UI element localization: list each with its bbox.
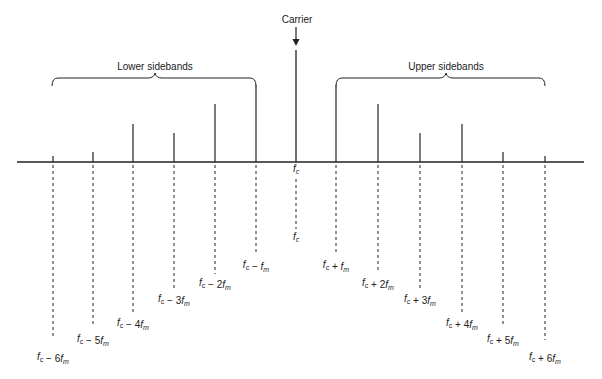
- sideband-label: fc + 5fm: [487, 333, 519, 347]
- sideband-label: fc + 6fm: [529, 351, 561, 365]
- sideband-label: fc − fm: [243, 259, 269, 273]
- sideband-line-fc-3fm: fc − 3fm: [158, 133, 190, 307]
- upper-sidebands-brace: [336, 73, 545, 86]
- sideband-label: fc + 4fm: [446, 317, 478, 331]
- sideband-line-fc+6fm: fc + 6fm: [529, 156, 561, 365]
- sideband-line-fc-5fm: fc − 5fm: [77, 152, 109, 347]
- sideband-label: fc + 3fm: [404, 293, 436, 307]
- sideband-label: fc − 5fm: [77, 333, 109, 347]
- lower-sidebands-label: Lower sidebands: [117, 61, 193, 72]
- lower-sidebands-brace: [52, 73, 256, 86]
- sideband-line-fc-2fm: fc − 2fm: [199, 104, 231, 291]
- carrier-axis-label: fc: [293, 163, 300, 175]
- sideband-line-fc+5fm: fc + 5fm: [487, 152, 519, 347]
- spectrum-svg: Carrier Lower sidebands Upper sidebands …: [0, 0, 602, 379]
- sideband-spectrum-diagram: Carrier Lower sidebands Upper sidebands …: [0, 0, 602, 379]
- sideband-line-fc+3fm: fc + 3fm: [404, 133, 436, 307]
- sideband-line-fc-6fm: fc − 6fm: [37, 156, 69, 365]
- upper-sidebands-label: Upper sidebands: [408, 61, 484, 72]
- carrier-arrow-icon: [293, 27, 300, 46]
- carrier-title: Carrier: [282, 14, 313, 25]
- sideband-line-fc+4fm: fc + 4fm: [446, 124, 478, 331]
- sideband-line-fc-fm: fc − fm: [243, 85, 269, 273]
- sideband-label: fc − 2fm: [199, 277, 231, 291]
- sideband-line-fc-4fm: fc − 4fm: [117, 124, 149, 331]
- sideband-label: fc − 6fm: [37, 351, 69, 365]
- sideband-line-fc+fm: fc + fm: [323, 85, 349, 273]
- sideband-line-fc+2fm: fc + 2fm: [362, 104, 394, 291]
- carrier-bottom-label: fc: [293, 231, 300, 243]
- sideband-label: fc + 2fm: [362, 277, 394, 291]
- sideband-label: fc − 4fm: [117, 317, 149, 331]
- sideband-label: fc + fm: [323, 259, 349, 273]
- sideband-lines: fc − 6fmfc − 5fmfc − 4fmfc − 3fmfc − 2fm…: [37, 85, 561, 365]
- sideband-label: fc − 3fm: [158, 293, 190, 307]
